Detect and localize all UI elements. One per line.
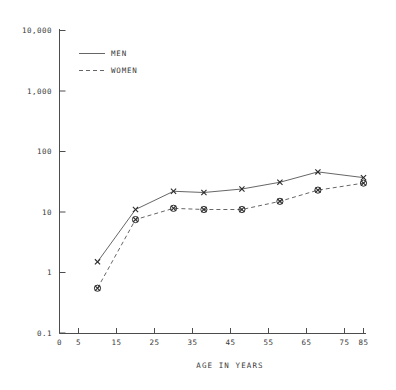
y-tick-label-10: 10	[42, 208, 52, 217]
x-tick-label-85: 85	[358, 338, 368, 347]
x-tick-label-5: 5	[76, 338, 81, 347]
y-tick-label-100: 100	[37, 147, 52, 156]
x-tick-label-65: 65	[301, 338, 311, 347]
y-tick-label-0point1: 0.1	[37, 329, 52, 338]
x-tick-label-75: 75	[339, 338, 349, 347]
x-tick-label-55: 55	[263, 338, 273, 347]
data-point-women-58[interactable]	[277, 198, 283, 204]
data-point-men-20[interactable]	[133, 207, 138, 212]
x-tick-label-15: 15	[111, 338, 121, 347]
x-tick-label-25: 25	[149, 338, 159, 347]
y-tick-label-1: 1	[47, 268, 52, 277]
x-axis-title: AGE IN YEARS	[196, 361, 263, 370]
data-point-men-10[interactable]	[95, 259, 100, 264]
chart-legend: MEN WOMEN	[79, 49, 138, 75]
y-axis-ticks	[60, 31, 66, 334]
data-point-women-20[interactable]	[132, 216, 138, 222]
data-series-layer	[94, 169, 366, 291]
x-axis-ticks	[60, 328, 364, 334]
x-tick-label-35: 35	[187, 338, 197, 347]
legend-label-women: WOMEN	[111, 66, 138, 75]
x-tick-label-0: 0	[57, 338, 62, 347]
data-point-women-10[interactable]	[94, 285, 100, 291]
y-tick-label-1000: 1,000	[27, 87, 52, 96]
legend-label-men: MEN	[111, 49, 127, 58]
x-tick-label-45: 45	[225, 338, 235, 347]
y-tick-label-10000: 10,000	[22, 26, 52, 35]
series-line-women	[98, 183, 364, 288]
chart-container: 10,000 1,000 100 10 1 0.1 0 5 15 25 35 4…	[0, 0, 396, 390]
line-chart-plot: 10,000 1,000 100 10 1 0.1 0 5 15 25 35 4…	[0, 0, 396, 390]
